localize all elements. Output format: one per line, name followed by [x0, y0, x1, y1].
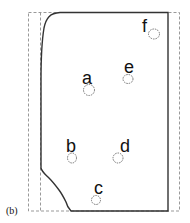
diagram-canvas: f e a b d c (b) — [0, 0, 190, 223]
point-label: e — [124, 57, 134, 77]
point-a: a — [82, 68, 95, 96]
point-f: f — [142, 16, 160, 39]
point-b: b — [66, 136, 77, 163]
figure-caption: (b) — [6, 205, 18, 217]
specimen-outline — [41, 13, 168, 212]
point-d: d — [113, 136, 130, 163]
point-label: f — [142, 16, 148, 36]
point-label: a — [82, 68, 93, 88]
point-e: e — [123, 57, 134, 84]
dashed-circle-marker — [149, 29, 160, 39]
point-label: b — [66, 136, 76, 156]
point-label: c — [94, 178, 103, 198]
point-c: c — [92, 178, 104, 205]
point-label: d — [120, 136, 130, 156]
